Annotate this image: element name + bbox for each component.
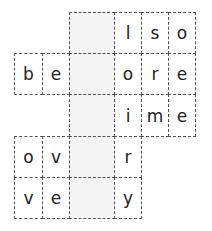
letter-cell: e — [42, 177, 70, 219]
letter-cell: e — [168, 94, 196, 137]
letter-cell: e — [42, 53, 70, 95]
letter-cell: v — [42, 136, 70, 178]
shaded-cell — [69, 177, 115, 219]
letter-cell: e — [168, 53, 196, 95]
letter-cell: i — [114, 94, 142, 137]
letter-cell: b — [14, 53, 43, 95]
shaded-cell — [69, 53, 115, 95]
letter-cell: o — [114, 53, 142, 95]
letter-cell: r — [114, 136, 142, 178]
letter-cell: v — [14, 177, 43, 219]
shaded-cell — [69, 12, 115, 54]
letter-cell: s — [141, 12, 169, 54]
letter-cell: o — [168, 12, 196, 54]
letter-cell: l — [114, 12, 142, 54]
letter-cell: o — [14, 136, 43, 178]
shaded-cell — [69, 136, 115, 178]
letter-cell: m — [141, 94, 169, 137]
shaded-cell — [69, 94, 115, 137]
letter-cell: y — [114, 177, 142, 219]
letter-cell: r — [141, 53, 169, 95]
